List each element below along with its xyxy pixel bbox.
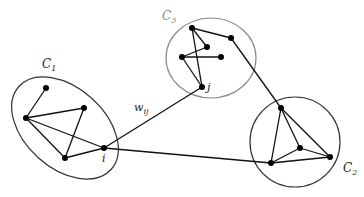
node-i: [101, 145, 107, 151]
edge-a2-a3: [26, 108, 84, 118]
edges: [26, 28, 330, 163]
graph-svg: C1C2C3ijwij: [0, 0, 364, 197]
edge-i-j: [104, 87, 202, 148]
cluster-label-subscript: 3: [171, 16, 176, 25]
node-j: [199, 84, 205, 90]
node-a1: [43, 85, 49, 91]
node-c5: [218, 54, 224, 60]
edge-a2-i: [26, 118, 104, 148]
node-label-i: i: [102, 152, 106, 165]
cluster-label-c1: C1: [42, 57, 56, 73]
node-a3: [81, 105, 87, 111]
node-b1: [278, 105, 284, 111]
node-b3: [327, 154, 333, 160]
edge-c2-b1: [231, 38, 281, 108]
edge-c1-c2: [192, 28, 231, 38]
node-b2: [297, 145, 303, 151]
node-c2: [228, 35, 234, 41]
edge-weight-subscript: ij: [143, 107, 149, 116]
cluster-label-subscript: 1: [51, 64, 56, 73]
edge-b1-b4: [271, 108, 281, 163]
node-c1: [189, 25, 195, 31]
node-a2: [23, 115, 29, 121]
edge-i-b4: [104, 148, 271, 163]
edge-b1-b2: [281, 108, 300, 148]
edge-c3-c4: [182, 47, 207, 57]
cluster-label-c2: C2: [343, 161, 357, 177]
node-c3: [204, 44, 210, 50]
node-c4: [179, 54, 185, 60]
edge-a4-i: [65, 148, 104, 158]
cluster-label-c3: C3: [162, 9, 176, 25]
cluster-graph-diagram: C1C2C3ijwij: [0, 0, 364, 197]
edge-a3-a4: [65, 108, 84, 158]
cluster-label-subscript: 2: [351, 168, 357, 177]
cluster-outline-c2: [250, 97, 340, 187]
node-b4: [268, 160, 274, 166]
edge-weight-label: wij: [134, 101, 149, 116]
node-a4: [62, 155, 68, 161]
cluster-outline-c1: [0, 57, 138, 197]
edge-a1-a2: [26, 88, 46, 118]
node-label-j: j: [204, 81, 211, 94]
